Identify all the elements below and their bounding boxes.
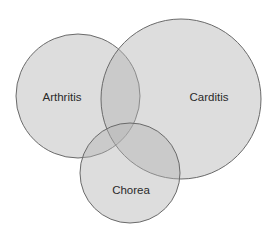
chorea-label: Chorea [112,184,150,196]
arthritis-label: Arthritis [43,91,82,103]
carditis-label: Carditis [190,91,229,103]
chorea-circle [80,123,180,223]
venn-diagram: Arthritis Carditis Chorea [0,0,274,238]
